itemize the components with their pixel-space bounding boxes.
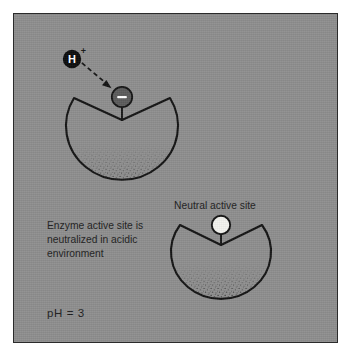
acidic-enzyme-group: H + xyxy=(44,46,224,205)
hydrogen-ion-letter: H xyxy=(68,53,76,65)
neutral-enzyme-group: Neutral active site xyxy=(164,200,334,312)
ph-value-label: pH = 3 xyxy=(47,307,85,319)
hydrogen-ion: H + xyxy=(63,46,86,69)
neutral-enzyme-stipple xyxy=(164,257,334,312)
neutral-active-site-label: Neutral active site xyxy=(174,200,256,211)
minus-icon xyxy=(117,96,127,98)
neutral-site-circle xyxy=(212,216,230,234)
diagram-panel: H + Neutral active site Enzyme active si xyxy=(13,13,338,343)
caption-block: Enzyme active site is neutralized in aci… xyxy=(47,220,143,259)
caption-line-3: environment xyxy=(47,248,104,259)
figure-root: H + Neutral active site Enzyme active si xyxy=(0,0,353,355)
negative-active-site xyxy=(112,87,132,107)
neutral-active-site xyxy=(212,216,230,234)
hydrogen-ion-charge: + xyxy=(81,46,86,56)
proton-arrow xyxy=(76,58,112,88)
arrow-head-icon xyxy=(102,80,112,88)
caption-line-1: Enzyme active site is xyxy=(47,220,143,231)
acidic-enzyme-stipple xyxy=(44,134,224,204)
caption-line-2: neutralized in acidic xyxy=(47,234,137,245)
diagram-canvas: H + Neutral active site Enzyme active si xyxy=(14,14,338,343)
